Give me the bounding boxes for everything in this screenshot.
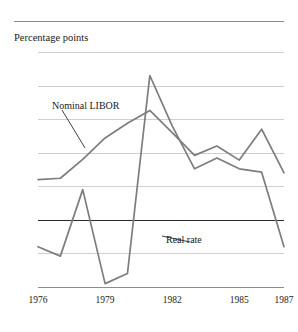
- x-tick-1985: 1985: [230, 295, 249, 305]
- x-tick-1987: 1987: [275, 295, 294, 305]
- series-lines: [38, 52, 284, 287]
- leader-line-nominal-libor: [62, 110, 85, 148]
- y-axis-title: Percentage points: [14, 32, 88, 44]
- cropped-caption-fragment: [14, 0, 164, 8]
- chart-figure: Percentage points 25 20 15 10 5 0 −5 −10…: [0, 0, 298, 332]
- x-tick-1982: 1982: [163, 295, 182, 305]
- plot-area: 25 20 15 10 5 0 −5 −10 1976 1979 1982 19…: [38, 52, 284, 287]
- series-label-nominal-libor: Nominal LIBOR: [52, 100, 120, 111]
- x-tick-1976: 1976: [29, 295, 48, 305]
- axis-baseline: [38, 287, 284, 288]
- header-divider: [14, 21, 284, 22]
- x-tick-1979: 1979: [96, 295, 115, 305]
- series-label-real-rate: Real rate: [166, 234, 202, 245]
